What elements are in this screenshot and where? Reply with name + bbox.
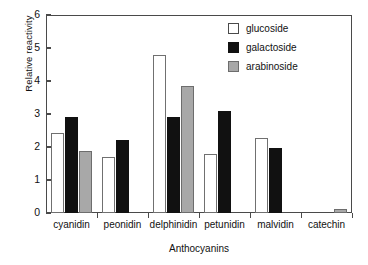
legend-swatch-icon-galactoside xyxy=(228,42,239,53)
x-group-label-peonidin: peonidin xyxy=(97,219,148,230)
bar-malvidin-glucoside xyxy=(255,138,269,213)
bar-malvidin-galactoside xyxy=(269,148,283,213)
x-group-label-petunidin: petunidin xyxy=(199,219,250,230)
legend-swatch-icon-arabinoside xyxy=(228,61,239,72)
bar-catechin-arabinoside xyxy=(334,209,348,213)
x-tick-mark xyxy=(301,213,302,218)
x-group-label-cyanidin: cyanidin xyxy=(46,219,97,230)
legend-label: galactoside xyxy=(246,42,297,53)
y-tick-mark xyxy=(46,80,51,81)
bar-petunidin-glucoside xyxy=(204,154,218,213)
y-tick-label: 0 xyxy=(14,207,40,218)
x-tick-mark xyxy=(148,213,149,218)
y-tick-label: 3 xyxy=(14,108,40,119)
x-group-label-delphinidin: delphinidin xyxy=(148,219,199,230)
y-tick-label: 4 xyxy=(14,75,40,86)
y-tick-label: 6 xyxy=(14,9,40,20)
x-group-label-malvidin: malvidin xyxy=(250,219,301,230)
bar-peonidin-glucoside xyxy=(102,157,116,213)
y-tick-mark xyxy=(46,47,51,48)
bar-chart: Relative reactivity 0123456 cyanidinpeon… xyxy=(0,0,368,265)
legend-label: arabinoside xyxy=(246,61,298,72)
legend-swatch-icon-glucoside xyxy=(228,23,239,34)
bar-cyanidin-glucoside xyxy=(51,133,65,213)
y-tick-label: 1 xyxy=(14,174,40,185)
x-tick-mark xyxy=(199,213,200,218)
y-tick-mark xyxy=(46,113,51,114)
bar-cyanidin-galactoside xyxy=(65,117,79,213)
x-group-label-catechin: catechin xyxy=(301,219,352,230)
bar-petunidin-galactoside xyxy=(218,111,232,213)
x-axis-title: Anthocyanins xyxy=(46,243,352,254)
legend: glucoside galactoside arabinoside xyxy=(228,20,298,77)
legend-item-glucoside[interactable]: glucoside xyxy=(228,20,298,37)
legend-label: glucoside xyxy=(246,23,288,34)
bar-cyanidin-arabinoside xyxy=(79,151,93,213)
bar-delphinidin-glucoside xyxy=(153,55,167,213)
bar-peonidin-galactoside xyxy=(116,140,130,213)
bar-delphinidin-arabinoside xyxy=(181,86,195,213)
legend-item-arabinoside[interactable]: arabinoside xyxy=(228,58,298,75)
x-tick-mark xyxy=(250,213,251,218)
bar-delphinidin-galactoside xyxy=(167,117,181,213)
y-tick-mark xyxy=(46,14,51,15)
y-tick-label: 5 xyxy=(14,42,40,53)
y-tick-label: 2 xyxy=(14,141,40,152)
x-tick-mark xyxy=(352,213,353,218)
legend-item-galactoside[interactable]: galactoside xyxy=(228,39,298,56)
x-tick-mark xyxy=(97,213,98,218)
